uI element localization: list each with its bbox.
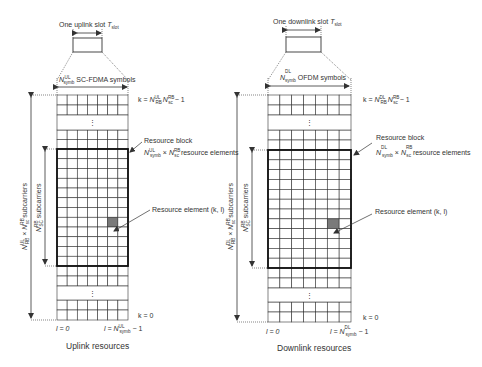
downlink-resource-element-cell — [304, 239, 316, 249]
uplink-resource-element-cell — [57, 130, 67, 140]
uplink-resource-element-cell — [57, 266, 67, 276]
uplink-resource-element-cell — [57, 140, 67, 150]
uplink-resource-element-cell — [57, 149, 67, 159]
downlink-panel: One downlink slot Tslot NDLsymb OFDM sym… — [226, 18, 471, 353]
downlink-resource-element-cell — [327, 248, 339, 258]
uplink-resource-element-cell — [77, 276, 87, 286]
uplink-resource-element-cell — [77, 256, 87, 266]
uplink-resource-element-cell — [67, 188, 77, 198]
downlink-resource-element-cell — [292, 199, 304, 209]
downlink-resource-element-cell — [280, 95, 292, 105]
downlink-resource-element-cell — [268, 278, 280, 288]
downlink-resource-grid: ⋮⋮ — [268, 95, 351, 322]
downlink-resource-element-cell — [268, 130, 280, 140]
downlink-resource-element-cell — [339, 302, 351, 312]
downlink-resource-element-cell — [280, 229, 292, 239]
uplink-resource-element-cell — [77, 310, 87, 320]
downlink-resource-element-cell — [339, 209, 351, 219]
uplink-resource-element-cell — [87, 130, 97, 140]
uplink-resource-element-cell — [108, 276, 118, 286]
uplink-resource-element-cell — [87, 276, 97, 286]
uplink-resource-element-cell — [67, 169, 77, 179]
uplink-panel: One uplink slot Tslot NULsymb SC-FDMA sy… — [20, 21, 239, 351]
downlink-resource-element-cell — [280, 180, 292, 190]
downlink-resource-element-cell — [304, 150, 316, 160]
uplink-k-zero-label: k = 0 — [138, 312, 153, 319]
downlink-resource-element-cell — [315, 248, 327, 258]
uplink-resource-element-cell — [87, 159, 97, 169]
downlink-resource-element-cell — [292, 239, 304, 249]
downlink-resource-block-formula: NDLsymb × NRBsc resource elements — [376, 145, 471, 158]
uplink-resource-element-cell — [67, 300, 77, 310]
uplink-resource-element-cell — [98, 227, 108, 237]
uplink-resource-element-cell — [87, 149, 97, 159]
downlink-resource-element-cell — [292, 140, 304, 150]
uplink-resource-element-cell — [108, 159, 118, 169]
uplink-resource-element-cell — [57, 310, 67, 320]
downlink-resource-element-cell — [292, 105, 304, 115]
uplink-resource-element-cell — [98, 159, 108, 169]
downlink-resource-element-cell — [339, 140, 351, 150]
downlink-resource-element-cell — [304, 219, 316, 229]
uplink-resource-block-title: Resource block — [144, 137, 193, 144]
downlink-resource-element-cell — [315, 160, 327, 170]
downlink-resource-element-cell — [280, 140, 292, 150]
uplink-resource-element-cell — [108, 198, 118, 208]
downlink-resource-element-cell — [327, 189, 339, 199]
uplink-l-start-label: l = 0 — [56, 325, 70, 332]
downlink-resource-element-cell — [315, 150, 327, 160]
uplink-highlighted-resource-element — [108, 217, 118, 227]
downlink-resource-element-cell — [327, 199, 339, 209]
downlink-resource-element-cell — [280, 278, 292, 288]
uplink-resource-element-cell — [67, 149, 77, 159]
downlink-resource-element-cell — [268, 302, 280, 312]
downlink-resource-element-cell — [292, 248, 304, 258]
downlink-resource-element-cell — [292, 95, 304, 105]
downlink-resource-element-cell — [280, 105, 292, 115]
downlink-resource-element-cell — [280, 130, 292, 140]
uplink-resource-element-cell — [98, 169, 108, 179]
uplink-resource-element-cell — [87, 105, 97, 115]
downlink-resource-element-cell — [327, 312, 339, 322]
downlink-resource-element-cell — [327, 258, 339, 268]
uplink-resource-element-cell — [87, 310, 97, 320]
downlink-resource-element-cell — [304, 302, 316, 312]
uplink-resource-element-cell — [98, 105, 108, 115]
downlink-resource-element-cell — [268, 199, 280, 209]
downlink-resource-element-cell — [315, 229, 327, 239]
uplink-resource-element-cell — [87, 140, 97, 150]
downlink-resource-element-cell — [315, 258, 327, 268]
uplink-slot-label: One uplink slot Tslot — [59, 21, 119, 30]
downlink-resource-element-cell — [268, 150, 280, 160]
uplink-resource-element-cell — [67, 140, 77, 150]
downlink-resource-element-cell — [304, 209, 316, 219]
downlink-resource-element-cell — [339, 258, 351, 268]
uplink-resource-element-cell — [118, 310, 128, 320]
downlink-k-max-label: k = NDLRBNRBsc − 1 — [363, 95, 410, 105]
downlink-resource-element-cell — [280, 170, 292, 180]
downlink-resource-element-cell — [315, 199, 327, 209]
uplink-resource-element-cell — [57, 188, 67, 198]
uplink-resource-element-cell — [108, 266, 118, 276]
downlink-resource-element-cell — [292, 170, 304, 180]
downlink-caption: Downlink resources — [277, 343, 351, 353]
downlink-resource-element-cell — [327, 268, 339, 278]
downlink-resource-element-cell — [339, 229, 351, 239]
uplink-resource-element-cell — [87, 208, 97, 218]
downlink-l-start-label: l = 0 — [266, 328, 280, 335]
downlink-resource-element-cell — [304, 258, 316, 268]
downlink-resource-element-cell — [339, 105, 351, 115]
downlink-resource-element-cell — [268, 258, 280, 268]
uplink-resource-element-cell — [87, 169, 97, 179]
uplink-resource-element-cell — [108, 247, 118, 257]
downlink-resource-element-cell — [304, 180, 316, 190]
uplink-resource-element-cell — [108, 130, 118, 140]
uplink-resource-element-cell — [118, 247, 128, 257]
downlink-resource-element-cell — [304, 229, 316, 239]
uplink-resource-element-cell — [98, 188, 108, 198]
downlink-resource-element-cell — [339, 248, 351, 258]
downlink-resource-element-cell — [304, 160, 316, 170]
uplink-resource-element-cell — [118, 208, 128, 218]
uplink-resource-element-cell — [57, 300, 67, 310]
uplink-resource-element-cell — [77, 237, 87, 247]
